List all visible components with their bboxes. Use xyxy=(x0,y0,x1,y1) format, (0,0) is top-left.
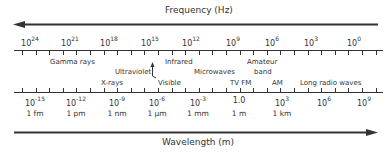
wavelength-tick-label: 106 xyxy=(317,96,331,108)
frequency-tick-label: 103 xyxy=(304,36,318,48)
wavelength-tick-label: 10-3 xyxy=(190,96,206,108)
frequency-tick-label: 1018 xyxy=(100,36,118,48)
frequency-tick-label: 1024 xyxy=(21,36,39,48)
band-label-long-radio-waves: Long radio waves xyxy=(300,79,361,87)
arrows-and-axes xyxy=(0,0,385,154)
wavelength-tick-label: 10-12 xyxy=(66,96,86,108)
wavelength-tick-label: 10-9 xyxy=(109,96,125,108)
band-label-gamma-rays: Gamma rays xyxy=(50,58,95,66)
band-label-am: AM xyxy=(272,79,283,87)
band-label-band: band xyxy=(254,68,272,76)
wavelength-tick-label: 103 xyxy=(275,96,289,108)
wavelength-arrow-icon xyxy=(14,129,378,136)
wavelength-tick-label: 109 xyxy=(357,96,371,108)
band-label-amateur: Amateur xyxy=(247,58,277,66)
frequency-tick-label: 109 xyxy=(226,36,240,48)
wavelength-unit-label: 1 nm xyxy=(107,109,126,118)
wavelength-unit-label: 1 mm xyxy=(187,109,209,118)
frequency-tick-label: 106 xyxy=(265,36,279,48)
wavelength-unit-label: 1 fm xyxy=(26,109,43,118)
frequency-tick-label: 100 xyxy=(347,36,361,48)
band-label-microwaves: Microwaves xyxy=(194,68,235,76)
band-label-visible: Visible xyxy=(158,79,181,87)
wavelength-tick-label: 10-15 xyxy=(25,96,45,108)
band-label-tv-fm: TV FM xyxy=(230,79,251,87)
frequency-tick-label: 1021 xyxy=(61,36,79,48)
wavelength-unit-label: 1 m xyxy=(232,109,246,118)
wavelength-tick-label: 10-6 xyxy=(149,96,165,108)
band-label-x-rays: X-rays xyxy=(101,79,123,87)
wavelength-unit-label: 1 μm xyxy=(147,109,166,118)
frequency-tick-label: 1012 xyxy=(182,36,200,48)
frequency-arrow-icon xyxy=(13,21,378,28)
wavelength-axis-title: Wavelength (m) xyxy=(162,137,234,147)
wavelength-unit-label: 1 pm xyxy=(66,109,85,118)
frequency-tick-label: 1015 xyxy=(141,36,159,48)
wavelength-unit-label: 1 km xyxy=(273,109,292,118)
band-label-infrared: Infrared xyxy=(165,58,193,66)
wavelength-tick-label: 1.0 xyxy=(233,96,246,105)
band-label-ultraviolet: Ultraviolet xyxy=(115,68,151,76)
